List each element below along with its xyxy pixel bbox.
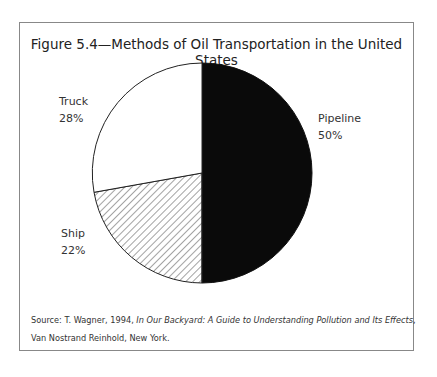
source-prefix: Source: T. Wagner, 1994,	[31, 315, 136, 325]
label-truck: Truck 28%	[59, 93, 88, 127]
label-truck-pct: 28%	[59, 110, 88, 127]
label-ship-pct: 22%	[61, 242, 85, 259]
label-pipeline: Pipeline 50%	[318, 110, 361, 144]
label-truck-name: Truck	[59, 93, 88, 110]
label-ship-name: Ship	[61, 225, 85, 242]
slice-pipeline	[202, 63, 312, 283]
source-book-title: In Our Backyard: A Guide to Understandin…	[136, 315, 413, 325]
source-citation: Source: T. Wagner, 1994, In Our Backyard…	[31, 311, 421, 347]
slice-truck	[92, 63, 202, 192]
label-pipeline-pct: 50%	[318, 127, 361, 144]
label-ship: Ship 22%	[61, 225, 85, 259]
label-pipeline-name: Pipeline	[318, 110, 361, 127]
